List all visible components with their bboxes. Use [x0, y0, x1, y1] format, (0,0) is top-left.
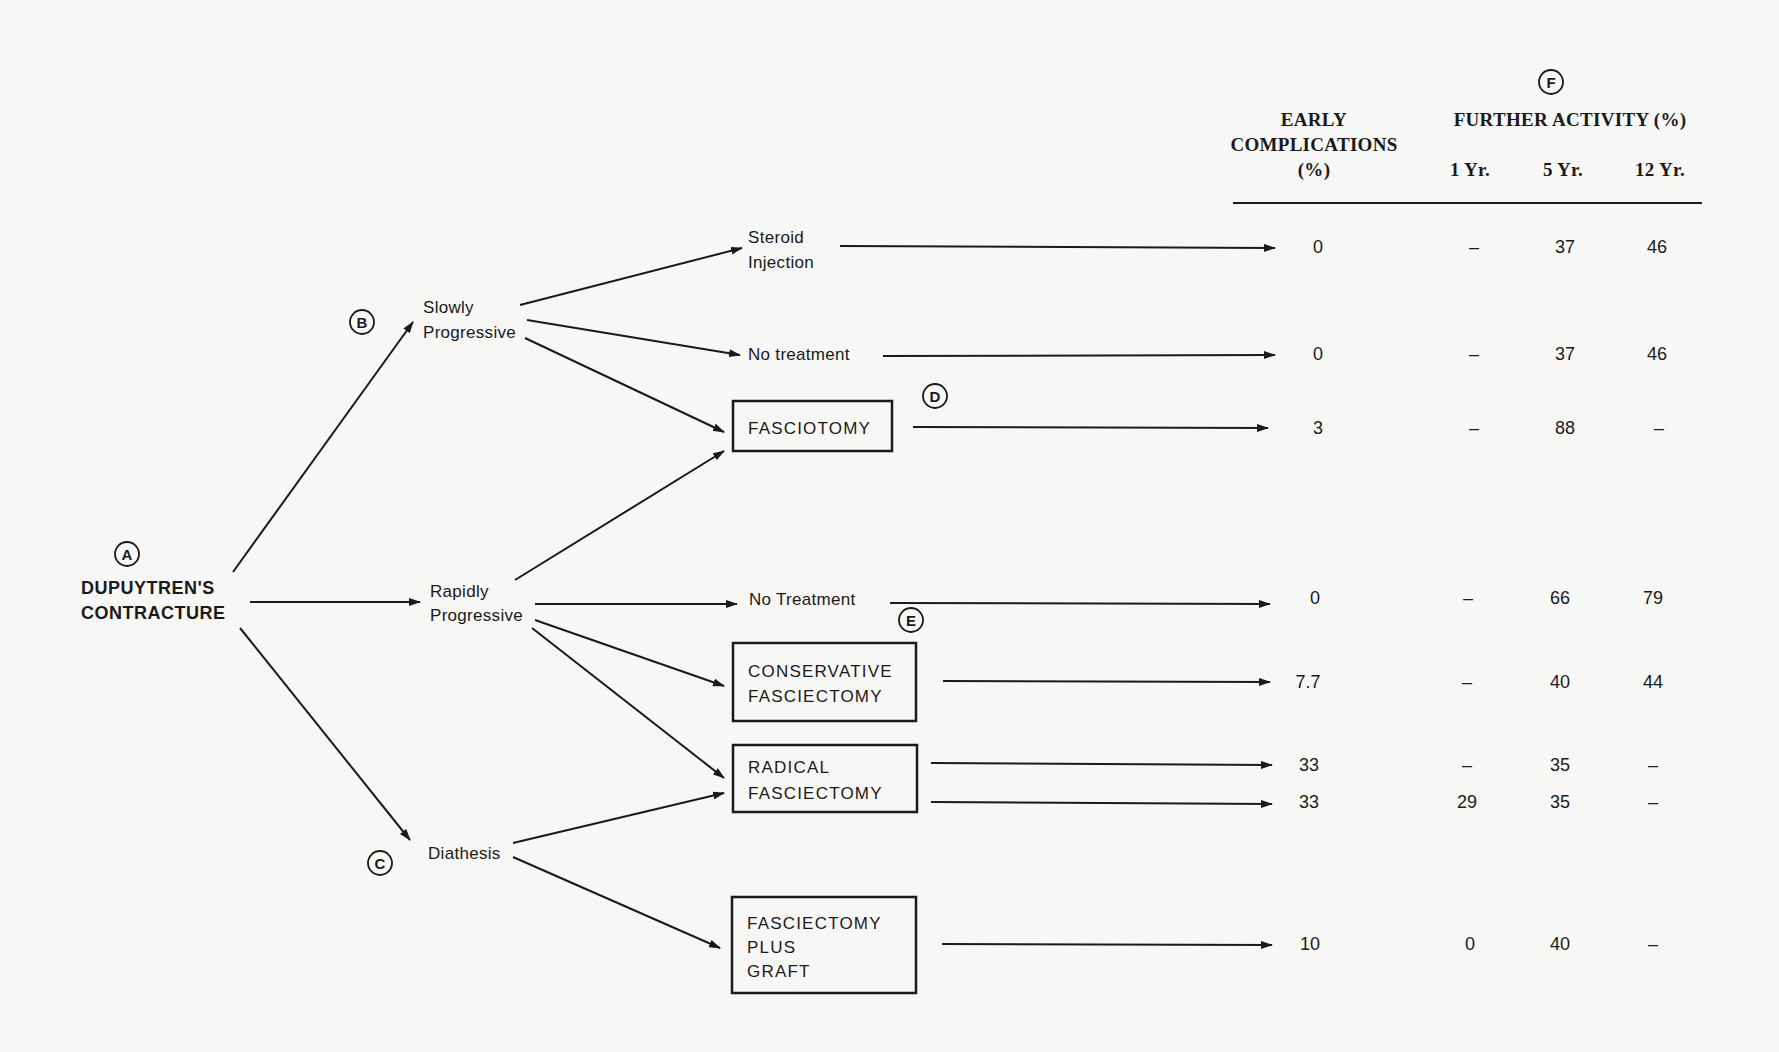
cell-5yr: 35 [1550, 792, 1570, 812]
svg-text:FASCIECTOMY: FASCIECTOMY [748, 784, 883, 803]
table-header: EARLY COMPLICATIONS (%) FURTHER ACTIVITY… [1230, 109, 1702, 203]
treatment-no-treatment-slow: No treatment [748, 345, 850, 364]
cell-early: 0 [1310, 588, 1320, 608]
edge-rapidly-radical [532, 628, 724, 778]
marker-a: A [115, 542, 139, 566]
edge-graft-outcome [942, 944, 1272, 945]
edge-conservative-outcome [943, 681, 1270, 682]
marker-d: D [923, 384, 947, 408]
decision-tree-figure: F EARLY COMPLICATIONS (%) FURTHER ACTIVI… [0, 0, 1779, 1052]
edge-radical-outcome-1 [931, 763, 1272, 765]
cell-12yr: 44 [1643, 672, 1663, 692]
edge-fasciotomy-outcome [913, 427, 1268, 428]
svg-text:Slowly: Slowly [423, 298, 474, 317]
header-12yr: 12 Yr. [1635, 159, 1685, 180]
cell-1yr: – [1469, 344, 1479, 364]
svg-text:Progressive: Progressive [430, 606, 523, 625]
svg-text:RADICAL: RADICAL [748, 758, 830, 777]
cell-1yr: – [1469, 237, 1479, 257]
edge-root-diathesis [240, 628, 410, 840]
treatment-steroid-injection: Steroid Injection [748, 228, 814, 272]
edge-diathesis-graft [513, 857, 720, 948]
table-row: 0 – 37 46 [1313, 237, 1667, 257]
cell-1yr: – [1462, 672, 1472, 692]
svg-text:PLUS: PLUS [747, 938, 796, 957]
root-label-line2: CONTRACTURE [81, 603, 226, 623]
cell-5yr: 66 [1550, 588, 1570, 608]
cell-early: 0 [1313, 344, 1323, 364]
svg-text:D: D [930, 388, 941, 405]
cell-1yr: 0 [1465, 934, 1475, 954]
cell-12yr: – [1648, 934, 1658, 954]
treatment-fasciectomy-plus-graft-box: FASCIECTOMY PLUS GRAFT [732, 897, 916, 993]
edge-root-slowly [233, 322, 413, 572]
svg-text:Diathesis: Diathesis [428, 844, 501, 863]
edge-slowly-fasciotomy [525, 338, 724, 432]
table-row: 33 29 35 – [1299, 792, 1658, 812]
marker-c: C [368, 851, 392, 875]
svg-text:FASCIECTOMY: FASCIECTOMY [748, 687, 883, 706]
table-row: 0 – 37 46 [1313, 344, 1667, 364]
marker-b: B [350, 310, 374, 334]
cell-5yr: 40 [1550, 672, 1570, 692]
svg-text:No Treatment: No Treatment [749, 590, 856, 609]
svg-text:Injection: Injection [748, 253, 814, 272]
cell-early: 33 [1299, 792, 1319, 812]
header-complications: COMPLICATIONS [1230, 134, 1397, 155]
marker-e: E [899, 608, 923, 632]
edge-rapidly-fasciotomy [515, 451, 724, 580]
cell-5yr: 37 [1555, 237, 1575, 257]
table-row: 3 – 88 – [1313, 418, 1664, 438]
svg-text:Rapidly: Rapidly [430, 582, 489, 601]
cell-1yr: – [1462, 755, 1472, 775]
cell-early: 0 [1313, 237, 1323, 257]
cell-early: 10 [1300, 934, 1320, 954]
cell-early: 7.7 [1295, 672, 1320, 692]
header-further-activity: FURTHER ACTIVITY (%) [1454, 109, 1687, 131]
cell-12yr: – [1648, 792, 1658, 812]
cell-12yr: 46 [1647, 237, 1667, 257]
cell-12yr: 46 [1647, 344, 1667, 364]
marker-f: F [1539, 70, 1563, 94]
svg-text:FASCIOTOMY: FASCIOTOMY [748, 419, 871, 438]
cell-early: 33 [1299, 755, 1319, 775]
treatment-no-treatment-rapid: No Treatment [749, 590, 856, 609]
cell-12yr: – [1654, 418, 1664, 438]
cell-5yr: 37 [1555, 344, 1575, 364]
edge-steroid-outcome [840, 246, 1275, 248]
treatment-fasciotomy-box: FASCIOTOMY [733, 401, 892, 451]
treatment-radical-fasciectomy-box: RADICAL FASCIECTOMY [733, 745, 917, 812]
edge-diathesis-radical [513, 793, 724, 843]
cell-early: 3 [1313, 418, 1323, 438]
header-1yr: 1 Yr. [1450, 159, 1490, 180]
cell-5yr: 40 [1550, 934, 1570, 954]
header-5yr: 5 Yr. [1543, 159, 1583, 180]
header-early: EARLY [1281, 109, 1347, 130]
svg-text:C: C [375, 855, 386, 872]
cell-1yr: – [1463, 588, 1473, 608]
edge-notreatment-slow-outcome [883, 355, 1275, 356]
edge-radical-outcome-2 [931, 802, 1272, 804]
branch-rapidly-progressive: Rapidly Progressive [430, 582, 523, 625]
table-row: 7.7 – 40 44 [1295, 672, 1663, 692]
table-row: 33 – 35 – [1299, 755, 1658, 775]
cell-5yr: 88 [1555, 418, 1575, 438]
branch-diathesis: Diathesis [428, 844, 501, 863]
svg-text:E: E [906, 612, 916, 629]
cell-1yr: 29 [1457, 792, 1477, 812]
svg-text:A: A [122, 546, 133, 563]
cell-12yr: 79 [1643, 588, 1663, 608]
svg-text:CONSERVATIVE: CONSERVATIVE [748, 662, 893, 681]
treatment-conservative-fasciectomy-box: CONSERVATIVE FASCIECTOMY [733, 643, 916, 721]
cell-12yr: – [1648, 755, 1658, 775]
root-node: DUPUYTREN'S CONTRACTURE [81, 578, 226, 623]
header-percent: (%) [1298, 159, 1331, 181]
svg-text:GRAFT: GRAFT [747, 962, 811, 981]
svg-text:Progressive: Progressive [423, 323, 516, 342]
svg-text:F: F [1546, 74, 1555, 91]
edge-slowly-notreatment [527, 320, 740, 355]
branch-slowly-progressive: Slowly Progressive [423, 298, 516, 342]
svg-text:B: B [357, 314, 368, 331]
svg-text:Steroid: Steroid [748, 228, 804, 247]
edge-notreatment-rapid-outcome [890, 603, 1270, 604]
